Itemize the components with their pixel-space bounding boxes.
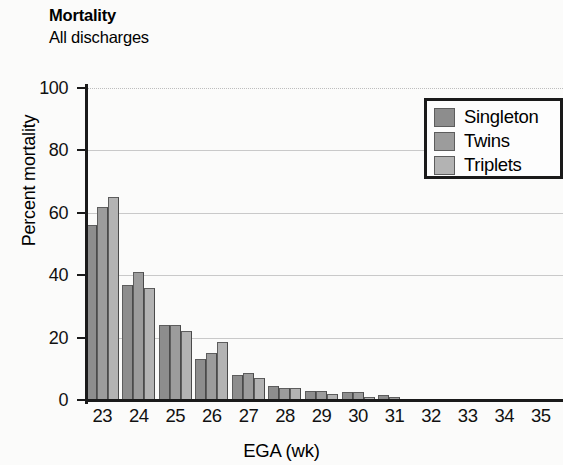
- gridline-60: [88, 213, 563, 214]
- x-tick-label-24: 24: [119, 406, 159, 426]
- y-tick-mark-20: [77, 337, 86, 339]
- y-axis-line: [85, 84, 88, 404]
- y-tick-mark-80: [77, 149, 86, 151]
- gridline-100: [88, 88, 563, 89]
- legend-swatch-icon-triplets: [434, 156, 455, 175]
- x-tick-label-28: 28: [265, 406, 305, 426]
- x-tick-label-29: 29: [302, 406, 342, 426]
- x-tick-label-33: 33: [448, 406, 488, 426]
- legend-item-triplets: Triplets: [434, 153, 522, 177]
- legend-swatch-icon-singleton: [434, 108, 455, 127]
- chart-subtitle: All discharges: [49, 28, 149, 47]
- bar-singleton-28: [268, 386, 279, 400]
- y-tick-mark-100: [77, 87, 86, 89]
- chart-title: Mortality: [49, 6, 116, 25]
- y-tick-label-20: 20: [22, 329, 68, 347]
- legend-swatch-icon-twins: [434, 132, 455, 151]
- legend-label-triplets: Triplets: [464, 155, 522, 175]
- legend-label-singleton: Singleton: [464, 107, 538, 127]
- bar-twins-23: [97, 207, 108, 400]
- x-tick-label-34: 34: [484, 406, 524, 426]
- bar-triplets-23: [108, 197, 119, 400]
- bar-singleton-27: [232, 375, 243, 400]
- x-axis-label: EGA (wk): [0, 440, 563, 462]
- gridline-40: [88, 275, 563, 276]
- bar-twins-26: [206, 353, 217, 400]
- bar-triplets-27: [254, 378, 265, 400]
- legend-item-singleton: Singleton: [434, 105, 538, 129]
- bar-singleton-26: [195, 359, 206, 400]
- bar-triplets-26: [217, 342, 228, 400]
- chart-screenshot: Mortality All discharges 020406080100 Pe…: [0, 0, 563, 465]
- y-tick-label-0: 0: [22, 391, 68, 409]
- legend-item-twins: Twins: [434, 129, 510, 153]
- legend-label-twins: Twins: [464, 131, 510, 151]
- x-tick-label-25: 25: [155, 406, 195, 426]
- x-tick-label-31: 31: [375, 406, 415, 426]
- bar-singleton-25: [159, 325, 170, 400]
- y-tick-mark-0: [77, 399, 86, 401]
- legend: Singleton Twins Triplets: [424, 98, 563, 179]
- x-tick-label-35: 35: [521, 406, 561, 426]
- bar-twins-27: [243, 373, 254, 400]
- bar-twins-25: [170, 325, 181, 400]
- bar-triplets-25: [181, 331, 192, 400]
- x-tick-label-26: 26: [192, 406, 232, 426]
- bar-twins-24: [133, 272, 144, 400]
- x-tick-label-23: 23: [82, 406, 122, 426]
- x-tick-label-27: 27: [228, 406, 268, 426]
- x-tick-label-32: 32: [411, 406, 451, 426]
- x-axis-line: [85, 399, 563, 402]
- y-axis-label: Percent mortality: [19, 66, 40, 296]
- x-tick-label-30: 30: [338, 406, 378, 426]
- bar-triplets-24: [144, 288, 155, 400]
- y-tick-mark-40: [77, 274, 86, 276]
- y-tick-mark-60: [77, 212, 86, 214]
- bar-singleton-24: [122, 285, 133, 400]
